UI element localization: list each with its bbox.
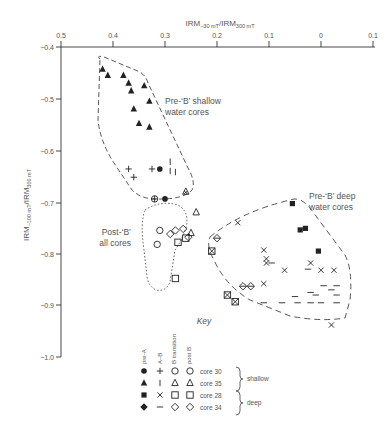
plus-marker-icon xyxy=(131,174,137,180)
chart-svg: IRM−30 mT/IRM300 mT 0.5 0.4 0.3 0.2 0.1 … xyxy=(0,0,391,426)
key-header-b-transition: B transition xyxy=(171,334,177,364)
series-core-30-pre-a xyxy=(157,166,168,202)
series-core-35-b-transition xyxy=(183,188,189,194)
series-core-34-post-b xyxy=(167,225,193,241)
series-core-30-a-b xyxy=(125,166,155,181)
x-marker-icon xyxy=(282,268,287,273)
x-marker-icon xyxy=(329,322,334,327)
x-axis-title: IRM−30 mT/IRM300 mT xyxy=(185,19,255,29)
key-row-label: core 28 xyxy=(200,392,222,399)
triangle-filled-marker-icon xyxy=(146,97,152,103)
square-filled-marker-icon xyxy=(303,226,308,231)
key-header-a-b: A–B xyxy=(157,353,163,364)
x-axis xyxy=(61,41,375,47)
square-filled-marker-icon xyxy=(141,392,146,397)
triangle-filled-marker-icon xyxy=(146,123,152,129)
y-tick-label: −1.0 xyxy=(40,354,54,361)
circle-filled-marker-icon xyxy=(157,166,163,172)
plus-marker-icon xyxy=(125,166,131,172)
square-cross-marker-icon xyxy=(209,248,215,254)
x-marker-icon xyxy=(235,220,240,225)
region-post-b-all xyxy=(142,203,187,290)
x-marker-icon xyxy=(264,260,269,265)
y-tick-label: −0.9 xyxy=(40,302,54,309)
square-filled-marker-icon xyxy=(298,227,303,232)
key-header-pre-a: pre-A xyxy=(141,349,147,364)
series-core-34-b-transition xyxy=(213,234,254,289)
circle-filled-marker-icon xyxy=(141,368,147,374)
square-open-marker-icon xyxy=(172,275,178,281)
x-tick-label: 0.4 xyxy=(108,32,118,39)
circle-open-marker-icon xyxy=(172,368,178,374)
circle-open-marker-icon xyxy=(157,227,163,233)
y-tick-label: −0.5 xyxy=(40,96,54,103)
key-group-deep: deep xyxy=(247,399,262,407)
region-pre-b-shallow xyxy=(98,56,193,199)
annotation-post-b-line1: Post-‘B’ xyxy=(102,227,131,237)
region-pre-b-deep xyxy=(209,199,351,320)
circle-filled-marker-icon xyxy=(162,196,168,202)
key-group-braces xyxy=(236,367,243,415)
key-header-post-b: post B xyxy=(186,347,192,364)
x-tick-label: 0.2 xyxy=(212,32,222,39)
series-core-28-a-b xyxy=(235,220,336,328)
annotation-post-b-line2: all cores xyxy=(99,238,131,248)
series-core-35-a-b xyxy=(170,159,175,176)
series-core-28-b-transition xyxy=(209,248,239,305)
triangle-filled-marker-icon xyxy=(141,82,147,88)
triangle-open-marker-icon xyxy=(187,379,193,385)
key-row-label: core 34 xyxy=(200,404,222,411)
diamond-open-marker-icon xyxy=(171,403,178,410)
key-row-labels: core 30 core 35 core 28 core 34 xyxy=(200,368,222,411)
annotation-pre-b-shallow-line2: water cores xyxy=(164,107,209,117)
annotation-pre-b-shallow-line1: Pre-‘B’ shallow xyxy=(165,96,222,106)
scatter-chart: IRM−30 mT/IRM300 mT 0.5 0.4 0.3 0.2 0.1 … xyxy=(0,0,391,426)
annotation-pre-b-deep-line1: Pre-‘B’ deep xyxy=(309,191,356,201)
triangle-filled-marker-icon xyxy=(141,379,147,385)
square-open-marker-icon xyxy=(187,392,193,398)
key-column-headers: pre-A A–B B transition post B xyxy=(141,334,192,364)
triangle-filled-marker-icon xyxy=(125,79,131,85)
y-axis xyxy=(56,47,61,357)
triangle-open-marker-icon xyxy=(172,379,178,385)
diamond-cross-marker-icon xyxy=(239,283,246,290)
diamond-cross-marker-icon xyxy=(213,234,220,241)
plus-marker-icon xyxy=(149,166,155,172)
diamond-filled-marker-icon xyxy=(140,403,147,410)
square-open-marker-icon xyxy=(172,392,178,398)
x-marker-icon xyxy=(331,268,336,273)
triangle-filled-marker-icon xyxy=(131,105,137,111)
y-tick-label: −0.7 xyxy=(40,200,54,207)
series-core-34-a-b xyxy=(261,263,340,303)
y-tick-labels: −0.4 −0.5 −0.6 −0.7 −0.8 −0.9 −1.0 xyxy=(40,44,54,361)
x-tick-label: 0.1 xyxy=(368,32,378,39)
diamond-open-marker-icon xyxy=(186,403,193,410)
triangle-filled-marker-icon xyxy=(128,87,134,93)
annotation-pre-b-deep-line2: water cores xyxy=(308,202,353,212)
y-tick-label: −0.4 xyxy=(40,44,54,51)
square-cross-marker-icon xyxy=(224,292,230,298)
series-core-30-post-b xyxy=(154,227,163,247)
key-row-label: core 30 xyxy=(200,368,222,375)
triangle-filled-marker-icon xyxy=(105,72,111,78)
key-symbols xyxy=(140,368,193,411)
triangle-cross-marker-icon xyxy=(183,188,189,194)
triangle-filled-marker-icon xyxy=(120,72,126,78)
triangle-filled-marker-icon xyxy=(136,120,142,126)
circle-plus-marker-icon xyxy=(151,196,157,202)
series-core-35-post-b xyxy=(188,209,200,236)
series-core-28-post-b xyxy=(172,235,189,282)
key-title: Key xyxy=(197,316,212,326)
circle-open-marker-icon xyxy=(187,368,193,374)
plus-marker-icon xyxy=(157,368,163,374)
x-tick-labels: 0.5 0.4 0.3 0.2 0.1 0 0.1 xyxy=(56,32,378,39)
x-tick-label: 0.1 xyxy=(264,32,274,39)
diamond-cross-marker-icon xyxy=(247,283,254,290)
key-row-label: core 35 xyxy=(200,380,222,387)
square-cross-marker-icon xyxy=(232,299,238,305)
key-group-shallow: shallow xyxy=(247,375,269,382)
square-open-marker-icon xyxy=(175,239,181,245)
series-core-35-pre-a xyxy=(99,65,152,129)
y-tick-label: −0.8 xyxy=(40,251,54,258)
square-filled-marker-icon xyxy=(290,201,295,206)
